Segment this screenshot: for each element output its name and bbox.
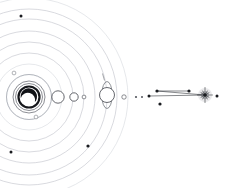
companion-dot-7[interactable] (216, 95, 219, 98)
orbit-marker-north[interactable] (20, 15, 23, 18)
planet-inner-large-body[interactable] (52, 91, 64, 103)
central-star-group[interactable] (19, 87, 40, 108)
star-burst-group[interactable] (198, 88, 213, 103)
planet-outer-tiny-body[interactable] (122, 95, 126, 99)
planet-ringed-body[interactable] (100, 88, 115, 103)
planet-mid-body[interactable] (70, 93, 78, 101)
companion-dot-4[interactable] (155, 89, 158, 92)
planet-outer-tiny[interactable] (122, 95, 126, 99)
planet-mid[interactable] (70, 93, 78, 101)
companion-dot-2[interactable] (141, 96, 143, 98)
diagram-root: Planetary system schematic Concentric or… (0, 0, 236, 188)
link-lower (149, 95, 205, 96)
scene-canvas (0, 0, 236, 188)
orbit-marker-far-left[interactable] (10, 151, 13, 154)
companion-dot-1[interactable] (135, 96, 137, 98)
planet-small[interactable] (82, 95, 86, 99)
orbit-marker-group[interactable] (10, 15, 90, 154)
planet-small-body[interactable] (82, 95, 86, 99)
link-upper (157, 91, 205, 95)
companion-dot-5[interactable] (158, 102, 161, 105)
burst-core[interactable] (203, 93, 207, 97)
star-burst[interactable] (198, 88, 213, 103)
orbit-marker-upper-left[interactable] (12, 71, 16, 75)
orbit-marker-south-east[interactable] (86, 144, 89, 147)
companion-dot-3[interactable] (148, 95, 151, 98)
orbit-marker-lower-left[interactable] (34, 115, 38, 119)
companion-dot-6[interactable] (187, 89, 190, 92)
orbit-5 (0, 31, 95, 163)
planet-inner-large[interactable] (52, 91, 64, 103)
